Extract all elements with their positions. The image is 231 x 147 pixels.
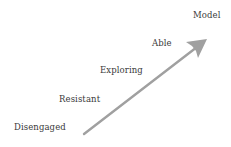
stage-label-disengaged: Disengaged <box>14 123 66 132</box>
stage-label-able: Able <box>152 39 172 48</box>
progression-diagram: Disengaged Resistant Exploring Able Mode… <box>0 0 231 147</box>
stage-label-exploring: Exploring <box>100 66 143 75</box>
stage-label-model: Model <box>193 11 221 20</box>
stage-label-resistant: Resistant <box>59 95 100 104</box>
